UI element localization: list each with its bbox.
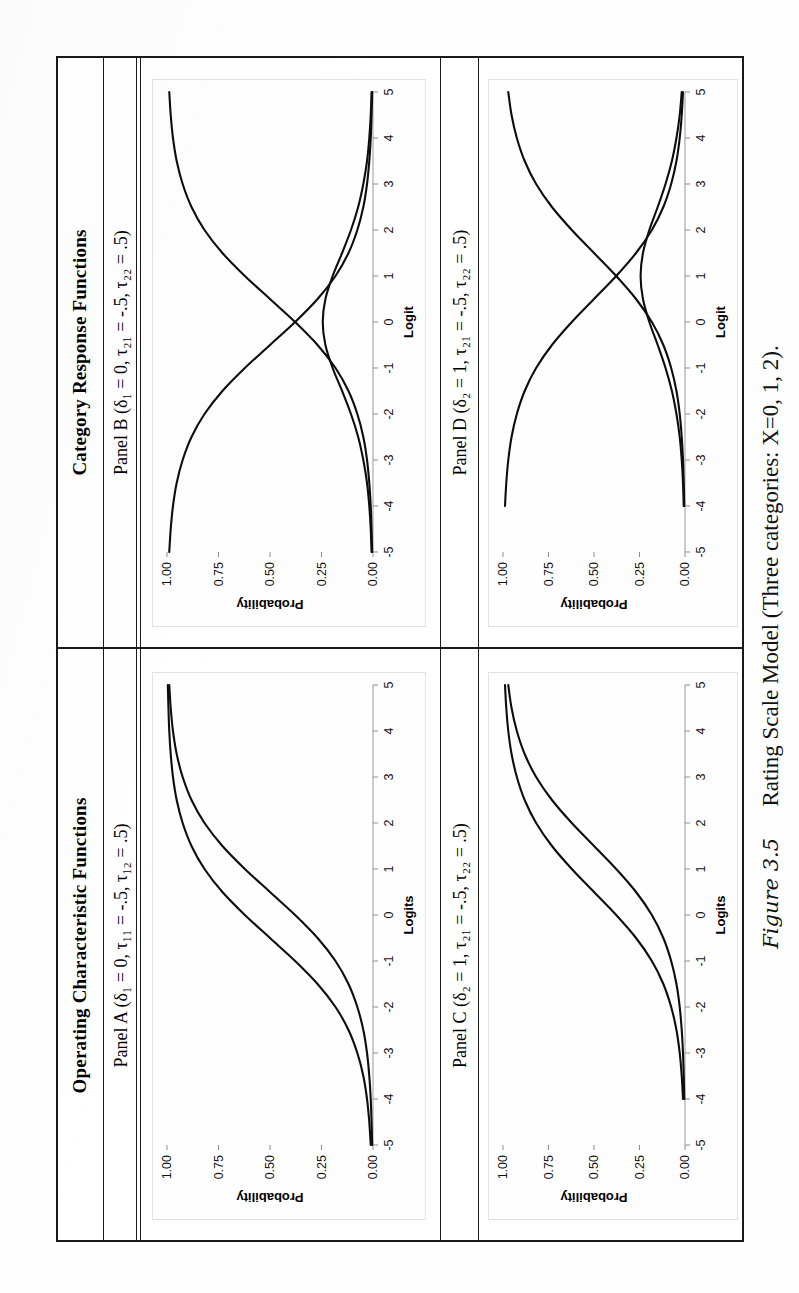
svg-text:-3: -3 — [382, 454, 396, 465]
svg-text:0.00: 0.00 — [678, 1154, 692, 1178]
svg-text:0.75: 0.75 — [541, 1154, 555, 1178]
chart-cell-panel-a: -5-4-3-2-1012345Logits0.000.250.500.751.… — [146, 657, 434, 1234]
svg-text:2: 2 — [694, 226, 708, 233]
chart-d: -5-4-3-2-1012345Logit0.000.250.500.751.0… — [488, 79, 738, 627]
svg-text:-5: -5 — [694, 546, 708, 557]
chart-a: -5-4-3-2-1012345Logits0.000.250.500.751.… — [152, 672, 426, 1220]
svg-text:-4: -4 — [694, 1093, 708, 1104]
svg-text:3: 3 — [694, 180, 708, 187]
group-title-category-response: Category Response Functions — [56, 56, 103, 649]
svg-text:Probability: Probability — [559, 597, 627, 612]
svg-text:0.25: 0.25 — [314, 561, 328, 585]
svg-text:-4: -4 — [382, 1093, 396, 1104]
svg-text:Probability: Probability — [235, 597, 303, 612]
svg-text:4: 4 — [694, 727, 708, 734]
svg-text:-2: -2 — [694, 408, 708, 419]
svg-text:0.50: 0.50 — [587, 561, 601, 585]
header-rule-4 — [478, 56, 479, 1242]
svg-text:2: 2 — [382, 226, 396, 233]
svg-text:-1: -1 — [694, 955, 708, 966]
svg-text:3: 3 — [382, 773, 396, 780]
panel-title-a: Panel A (δ₁ = 0, τ₁₁ = -.5, τ₁₂ = .5) — [105, 649, 138, 1242]
svg-text:-1: -1 — [382, 362, 396, 373]
figure-caption: Figure 3.5 Rating Scale Model (Three cat… — [749, 0, 793, 1293]
svg-text:1: 1 — [382, 272, 396, 279]
svg-text:Logit: Logit — [713, 305, 728, 337]
svg-text:-4: -4 — [694, 500, 708, 511]
svg-text:4: 4 — [382, 727, 396, 734]
group-title-operating-characteristic: Operating Characteristic Functions — [56, 649, 103, 1242]
panel-title-b: Panel B (δ₁ = 0, τ₂₁ = -.5, τ₂₂ = .5) — [105, 56, 138, 649]
svg-text:0: 0 — [382, 911, 396, 918]
chart-cell-panel-b: -5-4-3-2-1012345Logit0.000.250.500.751.0… — [146, 64, 434, 641]
svg-text:Logits: Logits — [713, 895, 728, 934]
svg-text:3: 3 — [382, 180, 396, 187]
svg-text:Probability: Probability — [235, 1190, 303, 1205]
svg-text:-1: -1 — [694, 362, 708, 373]
svg-text:1.00: 1.00 — [496, 561, 510, 585]
svg-text:0.50: 0.50 — [263, 561, 277, 585]
chart-b: -5-4-3-2-1012345Logit0.000.250.500.751.0… — [152, 79, 426, 627]
svg-text:2: 2 — [694, 819, 708, 826]
svg-text:2: 2 — [382, 819, 396, 826]
svg-text:1.00: 1.00 — [160, 561, 174, 585]
svg-text:-3: -3 — [694, 454, 708, 465]
svg-text:-5: -5 — [694, 1139, 708, 1150]
rotated-figure-canvas: Operating Characteristic Functions Categ… — [50, 52, 750, 1242]
svg-text:1: 1 — [694, 272, 708, 279]
svg-text:5: 5 — [382, 681, 396, 688]
svg-text:0.75: 0.75 — [211, 561, 225, 585]
svg-text:5: 5 — [694, 88, 708, 95]
header-rule-3 — [140, 56, 141, 1242]
svg-text:0: 0 — [694, 318, 708, 325]
chart-cell-panel-d: -5-4-3-2-1012345Logit0.000.250.500.751.0… — [484, 64, 742, 641]
svg-text:-5: -5 — [382, 546, 396, 557]
svg-text:-3: -3 — [694, 1047, 708, 1058]
figure-caption-text: Rating Scale Model (Three categories: X=… — [758, 345, 783, 806]
figure-number: Figure 3.5 — [759, 837, 783, 948]
row-divider — [440, 56, 441, 1242]
svg-text:1.00: 1.00 — [496, 1154, 510, 1178]
svg-text:1.00: 1.00 — [160, 1154, 174, 1178]
svg-text:0.25: 0.25 — [632, 1154, 646, 1178]
svg-text:-5: -5 — [382, 1139, 396, 1150]
svg-text:0.50: 0.50 — [587, 1154, 601, 1178]
svg-text:-2: -2 — [382, 1001, 396, 1012]
panel-title-d: Panel D (δ₂ = 1, τ₂₁ = -.5, τ₂₂ = .5) — [444, 56, 477, 649]
svg-text:0.25: 0.25 — [314, 1154, 328, 1178]
svg-text:0.00: 0.00 — [366, 1154, 380, 1178]
panel-title-c: Panel C (δ₂ = 1, τ₂₁ = -.5, τ₂₂ = .5) — [444, 649, 477, 1242]
column-divider — [56, 647, 744, 649]
chart-cell-panel-c: -5-4-3-2-1012345Logits0.000.250.500.751.… — [484, 657, 742, 1234]
svg-text:4: 4 — [382, 134, 396, 141]
svg-text:-4: -4 — [382, 500, 396, 511]
chart-c: -5-4-3-2-1012345Logits0.000.250.500.751.… — [488, 672, 738, 1220]
svg-text:0.00: 0.00 — [678, 561, 692, 585]
svg-text:3: 3 — [694, 773, 708, 780]
figure-page: Operating Characteristic Functions Categ… — [0, 0, 799, 1293]
svg-text:5: 5 — [694, 681, 708, 688]
svg-text:-1: -1 — [382, 955, 396, 966]
svg-text:Logit: Logit — [401, 305, 416, 337]
svg-text:0.50: 0.50 — [263, 1154, 277, 1178]
svg-text:Probability: Probability — [559, 1190, 627, 1205]
svg-text:4: 4 — [694, 134, 708, 141]
svg-text:-3: -3 — [382, 1047, 396, 1058]
svg-text:0: 0 — [694, 911, 708, 918]
svg-text:0: 0 — [382, 318, 396, 325]
svg-text:5: 5 — [382, 88, 396, 95]
svg-text:0.00: 0.00 — [366, 561, 380, 585]
svg-text:1: 1 — [694, 865, 708, 872]
svg-text:0.75: 0.75 — [541, 561, 555, 585]
svg-text:0.25: 0.25 — [632, 561, 646, 585]
svg-text:-2: -2 — [382, 408, 396, 419]
svg-text:1: 1 — [382, 865, 396, 872]
svg-text:0.75: 0.75 — [211, 1154, 225, 1178]
svg-text:-2: -2 — [694, 1001, 708, 1012]
svg-text:Logits: Logits — [401, 895, 416, 934]
